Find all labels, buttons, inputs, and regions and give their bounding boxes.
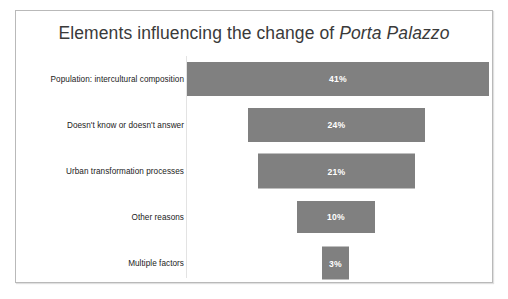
bar-row: Multiple factors 3% — [16, 240, 494, 286]
plot-area: Population: intercultural composition 41… — [16, 56, 494, 284]
bar-value-label: 24% — [328, 120, 346, 130]
bar-segment[interactable]: 3% — [322, 247, 349, 280]
bar-segment[interactable]: 41% — [187, 62, 489, 96]
bar-row: Urban transformation processes 21% — [16, 148, 494, 194]
bar-value-label: 41% — [329, 74, 347, 84]
chart-title: Elements influencing the change of Porta… — [16, 23, 492, 44]
category-label: Urban transformation processes — [66, 167, 184, 176]
chart-title-plain: Elements influencing the change of — [58, 23, 339, 43]
bar-row: Other reasons 10% — [16, 194, 494, 240]
category-label: Population: intercultural composition — [51, 75, 184, 84]
bar-segment[interactable]: 24% — [248, 108, 425, 142]
bar-row: Population: intercultural composition 41… — [16, 56, 494, 102]
bar-row: Doesn't know or doesn't answer 24% — [16, 102, 494, 148]
category-label: Doesn't know or doesn't answer — [67, 121, 184, 130]
category-label: Multiple factors — [128, 259, 184, 268]
bar-segment[interactable]: 10% — [297, 201, 375, 233]
category-label: Other reasons — [131, 213, 184, 222]
bar-value-label: 3% — [329, 258, 342, 268]
chart-frame: Elements influencing the change of Porta… — [15, 10, 493, 283]
bar-segment[interactable]: 21% — [258, 154, 415, 189]
bar-value-label: 21% — [328, 166, 346, 176]
bar-value-label: 10% — [327, 212, 345, 222]
chart-title-italic: Porta Palazzo — [339, 23, 449, 43]
